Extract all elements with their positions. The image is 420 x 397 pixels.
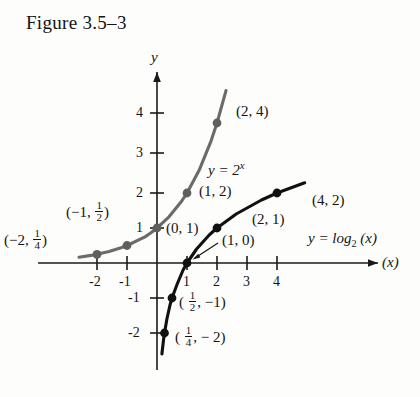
x-axis [38,256,378,270]
x-tick-label-3: 3 [243,275,250,289]
point-label-log-quarter: ( 14, − 2) [175,325,225,348]
x-tick-label-4: 4 [273,275,280,289]
x-tick-label-1: 1 [183,275,190,289]
fraction-numerator: 1 [189,290,197,301]
fraction-numerator: 1 [33,228,41,239]
point-label-exp-2: (2, 4) [236,104,269,119]
fraction-denominator: 4 [33,239,41,251]
y-tick-label-1: 1 [136,221,143,235]
point-label-log-4: (4, 2) [312,193,345,208]
exponential-curve [79,91,226,259]
point-label-log-half-close: , −1) [197,294,225,310]
fraction-one-quarter: 14 [185,325,193,348]
point-label-exp-neg1-close: ) [104,204,109,220]
x-tick-label-2: 2 [213,275,220,289]
point-label-exp-neg2: (−2, 14) [4,228,47,251]
y-tick-label-2: 2 [136,186,143,200]
logarithmic-equation-label: y = log2 (x) [308,231,377,249]
x-tick-label-neg2: -2 [89,275,101,289]
fraction-denominator: 4 [185,336,193,348]
point-label-log-half-open: ( [179,294,188,310]
y-tick-label-3: 3 [136,146,143,160]
fraction-denominator: 2 [95,211,103,223]
y-axis-label: y [151,50,158,65]
logarithmic-equation-text-pre: y = log [308,230,351,246]
fraction-one-half: 12 [95,200,103,223]
point-label-exp-neg2-open: (−2, [4,232,32,248]
y-tick-label-4: 4 [136,106,143,120]
exponential-equation-exponent: x [240,159,245,171]
point-label-exp-neg1: (−1, 12) [66,200,109,223]
fraction-denominator: 2 [189,301,197,313]
point-label-log-quarter-close: , − 2) [193,329,225,345]
point-label-log-1: (1, 0) [222,233,255,248]
exponential-equation-text: y = 2 [208,162,240,178]
logarithmic-equation-text-post: (x) [360,230,377,246]
point-label-log-quarter-open: ( [175,329,184,345]
y-axis [150,72,164,370]
x-axis-label: (x) [382,255,399,270]
fraction-numerator: 1 [95,200,103,211]
x-tick-label-neg1: -1 [119,275,131,289]
point-label-log-2: (2, 1) [252,212,285,227]
fraction-one-half: 12 [189,290,197,313]
figure-container: Figure 3.5–3 [0,0,420,397]
point-label-exp-0: (0, 1) [166,221,199,236]
y-tick-label-neg2: -2 [128,326,140,340]
fraction-numerator: 1 [185,325,193,336]
fraction-one-quarter: 14 [33,228,41,251]
point-label-exp-neg2-close: ) [42,232,47,248]
point-label-exp-neg1-open: (−1, [66,204,94,220]
point-label-log-half: ( 12, −1) [179,290,226,313]
y-tick-label-neg1: -1 [128,291,140,305]
logarithmic-equation-base: 2 [351,238,356,249]
exponential-equation-label: y = 2x [208,160,245,178]
point-label-exp-1: (1, 2) [199,184,232,199]
